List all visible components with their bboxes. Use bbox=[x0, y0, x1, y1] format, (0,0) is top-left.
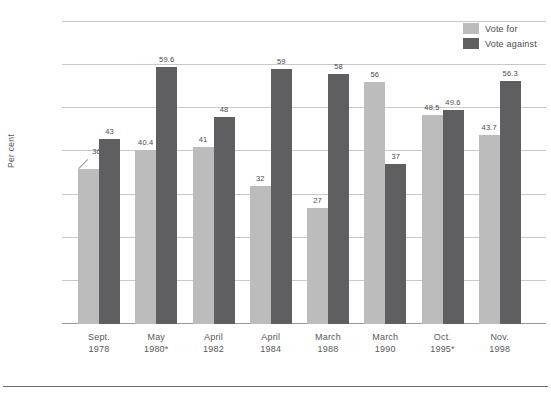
bar-value-label: 41 bbox=[199, 135, 208, 144]
bar-value-label: 43.7 bbox=[482, 123, 497, 132]
label-leader-line bbox=[79, 159, 88, 169]
legend-label-vote-against: Vote against bbox=[485, 39, 537, 49]
bar-value-label: 49.6 bbox=[445, 98, 460, 107]
bar-vote-against: 49.6 bbox=[443, 110, 464, 324]
bar-value-label: 37 bbox=[391, 152, 400, 161]
bar-vote-against: 48 bbox=[214, 117, 235, 324]
bar-vote-against: 58 bbox=[328, 74, 349, 324]
bar-group: 4148 bbox=[193, 22, 235, 324]
bar-vote-against: 43 bbox=[99, 139, 120, 325]
bar-vote-for: 32 bbox=[250, 186, 271, 324]
legend-swatch-vote-for bbox=[463, 23, 479, 34]
bar-value-label: 43 bbox=[105, 127, 114, 136]
bar-vote-for: 48.5 bbox=[422, 115, 443, 324]
bar-vote-for: 36 bbox=[78, 169, 99, 324]
bar-group: 2758 bbox=[307, 22, 349, 324]
bar-vote-for: 27 bbox=[307, 208, 328, 324]
bar-group: 3259 bbox=[250, 22, 292, 324]
bar-vote-for: 41 bbox=[193, 147, 214, 324]
bar-value-label: 59.6 bbox=[159, 55, 174, 64]
legend-label-vote-for: Vote for bbox=[485, 24, 518, 34]
bar-vote-against: 59.6 bbox=[156, 67, 177, 324]
bar-vote-against: 59 bbox=[271, 69, 292, 324]
footer-divider bbox=[3, 386, 548, 387]
bar-value-label: 48 bbox=[220, 105, 229, 114]
legend: Vote for Vote against bbox=[463, 23, 537, 53]
bar-group: 5637 bbox=[364, 22, 406, 324]
legend-item-vote-for: Vote for bbox=[463, 23, 537, 34]
bar-value-label: 40.4 bbox=[138, 138, 153, 147]
bar-group: 3643 bbox=[78, 22, 120, 324]
bar-value-label: 48.5 bbox=[424, 103, 439, 112]
bar-value-label: 56 bbox=[370, 70, 379, 79]
x-tick-label: Nov.1998 bbox=[465, 332, 535, 355]
bar-value-label: 59 bbox=[277, 57, 286, 66]
bar-value-label: 27 bbox=[313, 196, 322, 205]
bar-group: 48.549.6 bbox=[422, 22, 464, 324]
bar-vote-against: 56.3 bbox=[500, 81, 521, 324]
bar-group: 43.756.3 bbox=[479, 22, 521, 324]
y-axis-title: Per cent bbox=[6, 134, 16, 168]
plot-area: 364340.459.6414832592758563748.549.643.7… bbox=[62, 22, 546, 324]
bar-vote-for: 43.7 bbox=[479, 135, 500, 324]
legend-swatch-vote-against bbox=[463, 38, 479, 49]
bar-vote-against: 37 bbox=[385, 164, 406, 324]
bar-value-label: 58 bbox=[334, 62, 343, 71]
bar-vote-for: 40.4 bbox=[135, 150, 156, 324]
bar-value-label: 32 bbox=[256, 174, 265, 183]
bar-chart: Per cent 364340.459.6414832592758563748.… bbox=[0, 0, 551, 401]
bar-value-label: 56.3 bbox=[503, 69, 518, 78]
bar-group: 40.459.6 bbox=[135, 22, 177, 324]
bar-vote-for: 56 bbox=[364, 82, 385, 324]
legend-item-vote-against: Vote against bbox=[463, 38, 537, 49]
